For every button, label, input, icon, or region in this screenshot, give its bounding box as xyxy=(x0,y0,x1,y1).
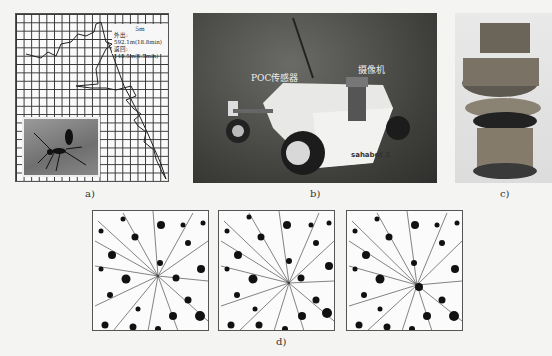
caption-b: b) xyxy=(310,188,320,199)
camera-label: 摄像机 xyxy=(358,63,385,76)
caption-a: a) xyxy=(85,188,95,199)
path-network-plot xyxy=(219,211,335,331)
path-network-2 xyxy=(218,210,335,331)
path-network-1 xyxy=(92,210,209,331)
robot-name-label: sahabot 2 xyxy=(351,151,390,159)
panel-c-circuit-robot xyxy=(455,13,552,183)
robot-illustration xyxy=(193,13,437,183)
path-legend: 5m 外出: 592.1m(18.8min) 返回: 140.5m(6.5min… xyxy=(112,24,168,54)
circuit-robot-illustration xyxy=(455,13,552,183)
scale-label: 5m xyxy=(114,25,166,32)
caption-c: c) xyxy=(500,188,510,199)
panel-a-grid-map: 5m 外出: 592.1m(18.8min) 返回: 140.5m(6.5min… xyxy=(15,13,169,182)
poc-sensor-label: POC传感器 xyxy=(251,71,298,84)
outbound-stat: 外出: 592.1m(18.8min) xyxy=(114,32,166,46)
path-network-plot xyxy=(93,211,209,331)
ant-photo-inset xyxy=(22,117,100,177)
path-network-plot xyxy=(347,211,463,331)
panel-b-robot-photo: POC传感器 摄像机 sahabot 2 xyxy=(193,13,437,183)
return-stat: 返回: 140.5m(6.5min) xyxy=(114,46,166,60)
caption-d: d) xyxy=(276,336,286,347)
path-network-3 xyxy=(346,210,463,331)
ant-icon xyxy=(24,119,98,175)
